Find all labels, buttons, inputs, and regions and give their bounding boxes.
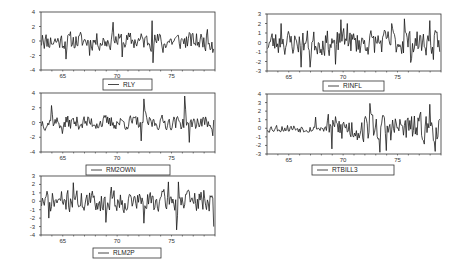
y-tick-label: 4	[258, 91, 262, 97]
y-tick-label: 0	[258, 40, 262, 46]
y-tick-label: 3	[32, 173, 36, 179]
y-tick-label: -4	[30, 67, 36, 73]
x-tick-label: 75	[168, 238, 175, 244]
legend-label: RM2OWN	[106, 166, 136, 173]
legend-label: RLM2P	[113, 249, 135, 256]
x-tick-label: 75	[394, 74, 401, 80]
y-tick-label: -2	[256, 59, 262, 65]
x-tick-label: 75	[168, 155, 175, 161]
x-tick-label: 70	[340, 157, 347, 163]
y-tick-label: 4	[32, 90, 36, 96]
y-tick-label: 2	[32, 24, 36, 30]
x-tick-label: 70	[114, 73, 121, 79]
y-tick-label: 1	[32, 190, 36, 196]
series-line	[268, 19, 440, 67]
x-tick-label: 65	[285, 157, 292, 163]
x-tick-label: 70	[114, 238, 121, 244]
panel-rlm2p: 3210-1-2-3-4657075RLM2P	[30, 173, 215, 258]
x-tick-label: 65	[59, 73, 66, 79]
y-tick-label: 3	[258, 100, 262, 106]
y-tick-label: 2	[258, 21, 262, 27]
figure-canvas: 420-2-4657075RLY 3210-1-2-3657075RINFL 4…	[0, 0, 460, 275]
y-tick-label: 1	[258, 117, 262, 123]
y-tick-label: -2	[30, 53, 36, 59]
y-tick-label: 0	[258, 125, 262, 131]
y-tick-label: -2	[30, 134, 36, 140]
y-tick-label: 4	[32, 9, 36, 15]
legend-label: RINFL	[343, 82, 362, 89]
x-tick-label: 65	[59, 155, 66, 161]
y-tick-label: -3	[256, 68, 262, 74]
series-line	[42, 96, 214, 142]
series-line	[268, 103, 440, 152]
x-tick-label: 70	[340, 74, 347, 80]
y-tick-label: 0	[32, 38, 36, 44]
y-tick-label: -2	[256, 142, 262, 148]
panel-rtbill3: 43210-1-2-3657075RTBILL3	[256, 91, 441, 175]
y-tick-label: -3	[30, 224, 36, 230]
y-tick-label: 3	[258, 11, 262, 17]
y-tick-label: -4	[30, 149, 36, 155]
panel-rinfl: 3210-1-2-3657075RINFL	[256, 11, 441, 91]
x-tick-label: 65	[59, 238, 66, 244]
legend-label: RLY	[123, 81, 136, 88]
y-tick-label: 0	[32, 198, 36, 204]
y-tick-label: 2	[32, 105, 36, 111]
panel-rm2own: 420-2-4657075RM2OWN	[30, 90, 215, 175]
x-tick-label: 75	[168, 73, 175, 79]
x-tick-label: 65	[285, 74, 292, 80]
y-tick-label: 0	[32, 120, 36, 126]
legend-label: RTBILL3	[332, 166, 358, 173]
y-tick-label: -2	[30, 215, 36, 221]
y-tick-label: -4	[30, 232, 36, 238]
x-tick-label: 70	[114, 155, 121, 161]
y-tick-label: -1	[30, 207, 36, 213]
y-tick-label: 2	[32, 181, 36, 187]
panel-rly: 420-2-4657075RLY	[30, 9, 215, 90]
y-tick-label: -3	[256, 151, 262, 157]
series-line	[42, 21, 214, 63]
x-tick-label: 75	[394, 157, 401, 163]
y-tick-label: -1	[256, 49, 262, 55]
y-tick-label: 1	[258, 30, 262, 36]
y-tick-label: 2	[258, 108, 262, 114]
series-line	[42, 182, 214, 230]
y-tick-label: -1	[256, 134, 262, 140]
